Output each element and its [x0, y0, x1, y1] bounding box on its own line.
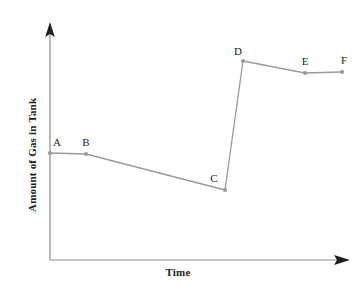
data-point-marker — [84, 152, 88, 156]
y-axis-title: Amount of Gas in Tank — [26, 98, 38, 212]
point-label-c: C — [210, 172, 217, 184]
point-label-b: B — [82, 136, 89, 148]
chart-plot-area — [0, 0, 359, 299]
gas-in-tank-line-chart: A B C D E F Amount of Gas in Tank Time — [0, 0, 359, 299]
data-point-marker — [340, 70, 344, 74]
data-point-marker — [48, 151, 52, 155]
data-series-line — [50, 61, 342, 190]
data-point-marker — [303, 71, 307, 75]
data-point-marker — [241, 59, 245, 63]
x-axis-title: Time — [165, 266, 190, 278]
point-label-d: D — [234, 45, 242, 57]
point-label-a: A — [53, 136, 61, 148]
data-point-marker — [223, 188, 227, 192]
point-label-f: F — [341, 54, 347, 66]
point-label-e: E — [302, 55, 309, 67]
